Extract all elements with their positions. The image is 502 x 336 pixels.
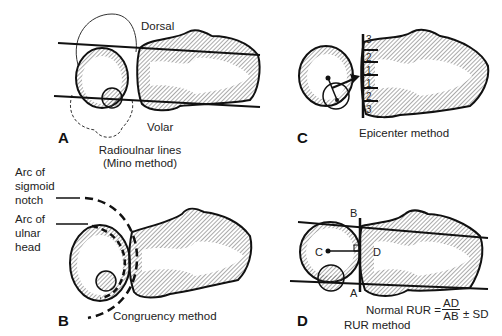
panel-b-drawing (56, 198, 251, 318)
panel-c-scale-3-bottom: 3 (366, 103, 372, 117)
panel-c-scale-2-bottom: 2 (366, 90, 372, 104)
panel-b-sigmoid-label-2: sigmoid (15, 179, 55, 193)
panel-a-caption-line1: Radioulnar lines (90, 143, 190, 157)
panel-d-formula-denominator: AB (442, 310, 460, 322)
panel-d-formula-suffix: ± SD (463, 307, 488, 321)
panel-d-point-d: D (373, 245, 381, 259)
panel-b-sigmoid-label-1: Arc of (15, 165, 45, 179)
panel-c-scale-1-top: 1 (366, 64, 372, 78)
panel-a-volar-label: Volar (147, 120, 173, 134)
panel-c-caption: Epicenter method (359, 126, 449, 140)
panel-a-letter: A (58, 129, 69, 146)
panel-c-scale-2-top: 2 (366, 51, 372, 65)
panel-d-formula-prefix: Normal RUR = (366, 303, 441, 317)
panel-b-caption: Congruency method (113, 309, 217, 323)
panel-d-formula-numerator: AD (442, 297, 460, 310)
panel-d-caption: RUR method (344, 318, 410, 332)
panel-d-point-b: B (350, 206, 357, 220)
panel-d-point-c: C (315, 245, 323, 259)
panel-b-letter: B (58, 312, 69, 329)
panel-c-drawing (299, 30, 488, 118)
panel-a-caption-line2: (Mino method) (90, 156, 190, 170)
panel-b-ulnar-label-3: head (15, 240, 41, 254)
panel-b-sigmoid-label-3: notch (15, 193, 43, 207)
panel-a-dorsal-label: Dorsal (141, 19, 174, 33)
panel-b-ulnar-label-1: Arc of (15, 212, 45, 226)
diagram-artwork (0, 0, 502, 336)
panel-d-formula-fraction: AD AB (442, 297, 460, 322)
panel-c-letter: C (297, 129, 308, 146)
panel-b-ulnar-label-2: ulnar (15, 226, 41, 240)
panel-d-letter: D (297, 312, 308, 329)
panel-d-point-a: A (350, 286, 357, 300)
panel-c-scale-3-top: 3 (366, 33, 372, 47)
panel-c-scale-1-bottom: 1 (366, 77, 372, 91)
